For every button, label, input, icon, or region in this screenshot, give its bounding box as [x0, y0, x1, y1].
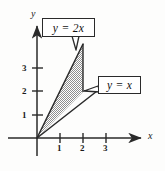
x-tick-label-3: 3 [103, 144, 108, 153]
y-tick-label-2: 2 [22, 87, 27, 96]
callout-y-equals-x-text: y = x [107, 79, 132, 91]
x-tick-label-1: 1 [57, 144, 62, 153]
y-tick-label-1: 1 [22, 111, 27, 120]
callout-y-equals-2x: y = 2x [42, 18, 95, 37]
callout-tail-upper [72, 36, 79, 50]
y-axis-label: y [31, 9, 35, 19]
x-axis [8, 133, 141, 143]
x-tick-label-2: 2 [80, 144, 85, 153]
callout-y-equals-2x-text: y = 2x [53, 22, 84, 34]
callout-y-equals-x: y = x [98, 76, 141, 94]
y-tick-label-3: 3 [22, 64, 27, 73]
y-axis [32, 26, 43, 156]
x-axis-label: x [148, 131, 152, 141]
